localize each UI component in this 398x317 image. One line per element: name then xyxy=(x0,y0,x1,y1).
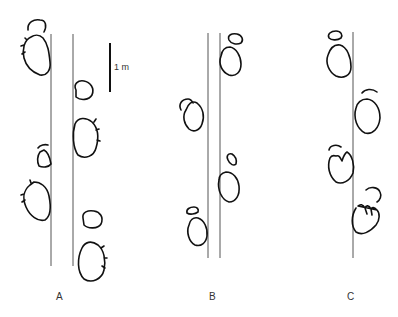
trackway-a-label: A xyxy=(56,291,63,302)
manus-print xyxy=(28,20,46,32)
manus-print xyxy=(187,207,198,214)
pes-print xyxy=(21,180,50,220)
pes-print xyxy=(352,205,379,234)
pes-print xyxy=(220,47,241,75)
manus-print xyxy=(328,31,341,40)
manus-print xyxy=(38,145,51,167)
manus-print xyxy=(366,188,381,202)
manus-print xyxy=(329,145,341,150)
trackway-a-prints xyxy=(21,20,107,281)
pes-print xyxy=(355,99,380,133)
pes-print xyxy=(184,102,204,131)
manus-print xyxy=(75,81,93,100)
manus-print xyxy=(362,89,377,93)
pes-print xyxy=(73,118,100,157)
trackway-c-label: C xyxy=(347,291,354,302)
manus-print xyxy=(229,34,243,44)
pes-print xyxy=(327,45,351,77)
pes-print xyxy=(21,35,50,75)
pes-print xyxy=(329,152,354,183)
pes-print xyxy=(78,242,107,281)
trackway-b-prints xyxy=(180,34,242,246)
manus-print xyxy=(227,154,236,165)
trackway-b-label: B xyxy=(209,291,216,302)
manus-print xyxy=(83,211,102,228)
trackway-c-prints xyxy=(327,31,381,234)
pes-print xyxy=(188,218,207,246)
scale-bar-label: 1 m xyxy=(114,62,129,72)
pes-print xyxy=(219,172,240,202)
trackway-diagram xyxy=(0,0,398,317)
